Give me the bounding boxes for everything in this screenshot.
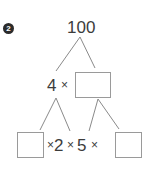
branch-four-left (40, 98, 56, 130)
branch-four-right (56, 98, 70, 131)
middle-answer-box[interactable] (75, 72, 111, 98)
bottom-factor-2: 2 (54, 137, 63, 154)
bottom-times-sign-3: × (91, 137, 98, 154)
bottom-right-answer-box[interactable] (115, 132, 142, 158)
branch-root-right (80, 37, 95, 68)
branch-box-left (89, 99, 98, 131)
bottom-times-sign-1: × (47, 137, 54, 154)
root-number: 100 (67, 19, 95, 36)
bottom-factor-5: 5 (77, 137, 86, 154)
branch-box-right (98, 99, 119, 129)
middle-times-sign: × (61, 77, 68, 94)
bottom-left-answer-box[interactable] (17, 132, 44, 158)
middle-factor: 4 (47, 77, 56, 94)
branch-root-left (56, 37, 80, 71)
bottom-times-sign-2: × (67, 137, 74, 154)
